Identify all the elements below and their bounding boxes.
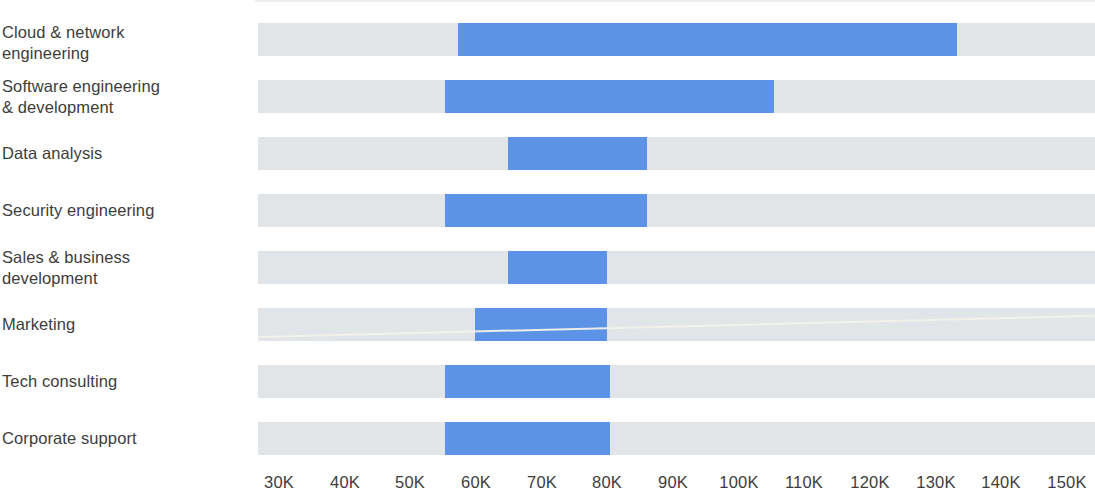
category-label: Data analysis (2, 143, 246, 164)
category-label: Corporate support (2, 428, 246, 449)
bar-track (258, 137, 1095, 170)
axis-tick-label: 70K (527, 466, 557, 499)
chart-row: Marketing (0, 308, 1095, 341)
bar-track (258, 422, 1095, 455)
axis-tick-label: 50K (395, 466, 425, 499)
axis-tick-label: 60K (461, 466, 491, 499)
range-bar[interactable] (445, 422, 610, 455)
chart-row: Data analysis (0, 137, 1095, 170)
axis-tick-label: 130K (916, 466, 955, 499)
range-bar[interactable] (445, 194, 647, 227)
chart-plot-area: Cloud & network engineering Software eng… (0, 0, 1095, 465)
chart-row: Software engineering & development (0, 80, 1095, 113)
category-label: Sales & business development (2, 247, 246, 289)
axis-tick-label: 90K (658, 466, 688, 499)
range-bar[interactable] (475, 308, 607, 341)
chart-row: Sales & business development (0, 251, 1095, 284)
range-bar[interactable] (445, 365, 610, 398)
range-bar[interactable] (508, 137, 647, 170)
range-bar[interactable] (445, 80, 774, 113)
bar-track (258, 194, 1095, 227)
category-label: Software engineering & development (2, 76, 246, 118)
bar-track (258, 80, 1095, 113)
range-bar[interactable] (458, 23, 957, 56)
horizontal-range-bar-chart: Cloud & network engineering Software eng… (0, 0, 1095, 499)
axis-tick-label: 80K (592, 466, 622, 499)
axis-tick-label: 110K (785, 466, 823, 499)
range-bar[interactable] (508, 251, 607, 284)
bar-track (258, 365, 1095, 398)
category-label: Marketing (2, 314, 246, 335)
x-axis: 30K 40K 50K 60K 70K 80K 90K 100K 110K 12… (0, 466, 1095, 499)
category-label: Tech consulting (2, 371, 246, 392)
axis-tick-label: 150K (1047, 466, 1086, 499)
chart-row: Security engineering (0, 194, 1095, 227)
axis-tick-label: 40K (330, 466, 360, 499)
axis-tick-label: 140K (981, 466, 1020, 499)
category-label: Security engineering (2, 200, 246, 221)
chart-row: Corporate support (0, 422, 1095, 455)
chart-row: Cloud & network engineering (0, 23, 1095, 56)
axis-tick-label: 100K (719, 466, 758, 499)
chart-row: Tech consulting (0, 365, 1095, 398)
bar-track (258, 23, 1095, 56)
bar-track (258, 251, 1095, 284)
axis-tick-label: 30K (264, 466, 294, 499)
axis-tick-label: 120K (850, 466, 889, 499)
category-label: Cloud & network engineering (2, 22, 246, 64)
